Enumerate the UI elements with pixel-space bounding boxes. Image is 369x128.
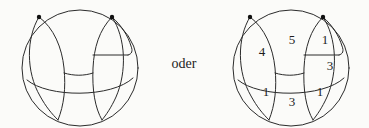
left-bottom-arc bbox=[27, 78, 133, 93]
right-vertex-right bbox=[321, 15, 325, 19]
right-crossbar bbox=[275, 73, 304, 75]
left-crossbar bbox=[64, 73, 93, 75]
planar-graph-figure: oder 4 5 bbox=[0, 0, 369, 128]
face-label-right-middle: 3 bbox=[327, 58, 334, 73]
face-label-right-top: 1 bbox=[322, 32, 329, 47]
left-diagram bbox=[22, 10, 138, 126]
right-arc-inner-right bbox=[304, 17, 323, 120]
face-label-bottom-center: 3 bbox=[289, 94, 296, 109]
face-label-bottom-right: 1 bbox=[317, 84, 324, 99]
right-bottom-arc bbox=[238, 78, 344, 93]
left-outer-circle bbox=[22, 10, 138, 126]
face-label-left: 4 bbox=[259, 44, 266, 59]
left-arc-outer-right bbox=[102, 17, 123, 120]
right-vertex-left bbox=[248, 15, 252, 19]
conjunction-label: oder bbox=[172, 56, 197, 71]
right-diagram: 4 5 1 3 1 3 1 bbox=[233, 10, 349, 126]
face-label-center-top: 5 bbox=[289, 32, 296, 47]
left-vertex-right bbox=[110, 15, 114, 19]
left-arc-inner-left bbox=[39, 17, 65, 120]
right-arc-inner-left bbox=[250, 17, 276, 120]
left-arc-inner-right bbox=[93, 17, 112, 120]
face-label-bottom-left: 1 bbox=[263, 84, 270, 99]
figure-root: oder 4 5 bbox=[0, 0, 369, 128]
left-vertex-left bbox=[37, 15, 41, 19]
